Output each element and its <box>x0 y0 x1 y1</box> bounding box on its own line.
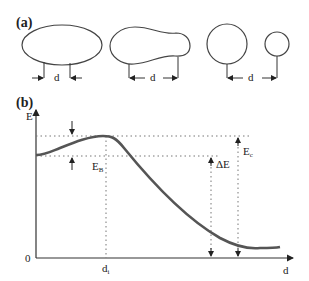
distance-label: d <box>54 71 60 83</box>
barrier-label: EB <box>92 160 104 174</box>
di-tick-label: di <box>102 262 110 276</box>
panel-a-label: (a) <box>16 15 33 31</box>
delta-e-label: ΔE <box>216 158 230 170</box>
y-axis-label: E <box>26 110 33 122</box>
figure: (a) d d d (b) E 0 d EB ΔE Ec <box>0 0 309 281</box>
large-circle-shape <box>207 24 247 64</box>
panel-b-label: (b) <box>16 95 33 111</box>
distance-label: d <box>150 71 156 83</box>
small-circle-shape <box>265 32 289 56</box>
ec-label: Ec <box>243 145 253 159</box>
ellipse-shape <box>22 25 102 65</box>
x-axis-label: d <box>283 264 289 276</box>
distance-label: d <box>248 71 254 83</box>
guide-lines <box>36 136 250 258</box>
origin-label: 0 <box>25 252 31 264</box>
